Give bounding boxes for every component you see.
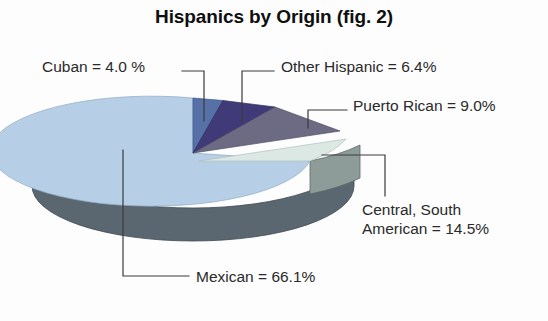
label-central-south-line1: Central, South bbox=[362, 200, 532, 219]
label-other-hispanic: Other Hispanic = 6.4% bbox=[281, 57, 437, 76]
pie-top-faces bbox=[0, 96, 346, 206]
pie-chart-figure: Hispanics by Origin (fig. 2) bbox=[0, 0, 548, 321]
label-mexican: Mexican = 66.1% bbox=[196, 267, 315, 286]
label-puerto-rican: Puerto Rican = 9.0% bbox=[353, 96, 496, 115]
label-central-south-line2: American = 14.5% bbox=[362, 219, 532, 238]
label-cuban: Cuban = 4.0 % bbox=[42, 57, 145, 76]
label-central-south-american: Central, South American = 14.5% bbox=[362, 200, 532, 238]
